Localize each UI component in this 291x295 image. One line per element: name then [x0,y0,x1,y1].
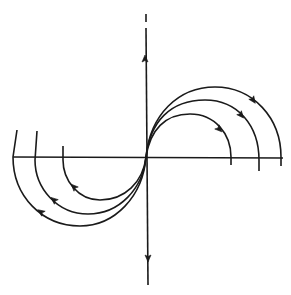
diagram-canvas [0,0,291,295]
trajectory-middle-right [146,100,259,171]
x-axis [13,157,283,158]
trajectory-inner-left [63,146,146,200]
up-arrow-icon [142,55,148,62]
phase-portrait-diagram [0,0,291,295]
trajectory-outer-left [13,130,146,226]
trajectory-outer-right [146,87,281,166]
